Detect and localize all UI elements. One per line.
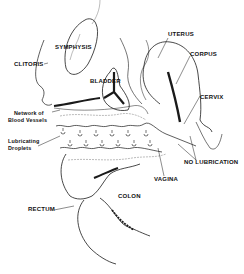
label-no-lubrication: NO LUBRICATION: [184, 159, 238, 165]
label-cervix: CERVIX: [200, 94, 223, 100]
label-colon: COLON: [118, 193, 141, 199]
bladder-outline: [102, 68, 129, 111]
leader-lines: [38, 38, 200, 210]
lubricating-droplets: [61, 128, 152, 146]
label-lubricating-line2: Droplets: [8, 145, 40, 152]
colon-wall: [94, 168, 118, 178]
label-uterus: UTERUS: [168, 31, 194, 37]
body-contour: [36, 40, 52, 105]
label-lubricating-line1: Lubricating: [8, 138, 40, 145]
vaginal-wall-lower: [60, 147, 162, 152]
rectum-outline: [78, 200, 116, 264]
pelvis-line-drawing: [0, 0, 244, 274]
label-lubricating-droplets: Lubricating Droplets: [8, 138, 40, 152]
label-network-of-blood-vessels: Network of Blood Vessels: [8, 110, 47, 124]
label-network-line1: Network of: [8, 110, 47, 117]
label-clitoris: CLITORIS: [14, 61, 44, 67]
vessel-network-band: [54, 105, 148, 114]
label-network-line2: Blood Vessels: [8, 117, 47, 124]
label-symphysis: SYMPHYSIS: [55, 44, 92, 50]
label-bladder: BLADDER: [90, 78, 121, 84]
label-corpus: CORPUS: [190, 51, 217, 57]
label-vagina: VAGINA: [154, 176, 178, 182]
label-rectum: RECTUM: [28, 206, 55, 212]
colon-lower: [100, 198, 150, 236]
urethra: [54, 98, 100, 106]
cervix: [196, 122, 222, 149]
